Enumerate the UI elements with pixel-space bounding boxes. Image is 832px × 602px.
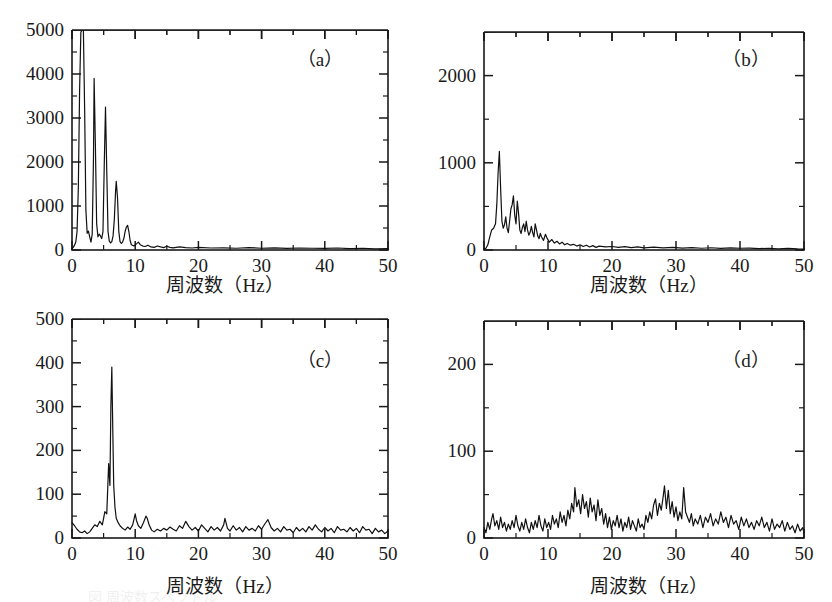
panel-b-tag: （b） bbox=[722, 49, 770, 70]
y-tick-label: 300 bbox=[36, 396, 65, 417]
panel-d-axes: 010203040500100200 bbox=[448, 301, 814, 564]
y-tick-label: 3000 bbox=[26, 107, 64, 128]
x-tick-label: 50 bbox=[379, 255, 398, 276]
panel-a-svg: 01020304050010002000300040005000 （a） 周波数… bbox=[0, 0, 416, 301]
x-tick-label: 40 bbox=[731, 255, 750, 276]
y-tick-label: 4000 bbox=[26, 63, 64, 84]
x-tick-label: 20 bbox=[189, 543, 208, 564]
y-tick-label: 0 bbox=[467, 239, 477, 260]
panel-c-svg: 010203040500100200300400500 （c） 周波数（Hz） bbox=[0, 301, 416, 602]
x-tick-label: 0 bbox=[67, 543, 77, 564]
x-tick-label: 10 bbox=[539, 543, 558, 564]
x-tick-label: 20 bbox=[189, 255, 208, 276]
trace-clip-top bbox=[70, 0, 390, 30]
panel-c: 010203040500100200300400500 （c） 周波数（Hz） bbox=[0, 301, 416, 602]
y-tick-label: 400 bbox=[36, 352, 65, 373]
spectrum-trace bbox=[484, 151, 804, 249]
x-tick-label: 30 bbox=[252, 255, 271, 276]
y-tick-label: 100 bbox=[36, 483, 65, 504]
y-tick-label: 2000 bbox=[26, 151, 64, 172]
panel-a-xlabel: 周波数（Hz） bbox=[166, 275, 283, 296]
x-tick-label: 40 bbox=[315, 255, 334, 276]
x-tick-label: 10 bbox=[539, 255, 558, 276]
panel-a-tag: （a） bbox=[297, 49, 343, 70]
y-tick-label: 1000 bbox=[26, 195, 64, 216]
trace-clip-top bbox=[482, 301, 806, 321]
x-tick-label: 20 bbox=[603, 255, 622, 276]
x-tick-label: 50 bbox=[795, 255, 814, 276]
x-tick-label: 40 bbox=[315, 543, 334, 564]
x-tick-label: 0 bbox=[479, 255, 489, 276]
x-tick-label: 30 bbox=[252, 543, 271, 564]
panel-c-axes: 010203040500100200300400500 bbox=[36, 301, 398, 564]
panel-c-tag: （c） bbox=[297, 350, 343, 371]
trace-clip-top bbox=[70, 301, 390, 319]
x-tick-label: 0 bbox=[479, 543, 489, 564]
panel-d-tag: （d） bbox=[722, 350, 770, 371]
y-tick-label: 0 bbox=[55, 527, 65, 548]
x-tick-label: 40 bbox=[731, 543, 750, 564]
y-tick-label: 1000 bbox=[438, 152, 476, 173]
x-tick-label: 10 bbox=[126, 255, 145, 276]
x-tick-label: 30 bbox=[667, 255, 686, 276]
spectrum-trace bbox=[484, 486, 804, 533]
spectrum-trace bbox=[72, 367, 388, 533]
x-tick-label: 10 bbox=[126, 543, 145, 564]
panel-b-axes: 01020304050010002000 bbox=[438, 0, 814, 276]
x-tick-label: 50 bbox=[379, 543, 398, 564]
x-tick-label: 50 bbox=[795, 543, 814, 564]
y-tick-label: 2000 bbox=[438, 65, 476, 86]
x-tick-label: 20 bbox=[603, 543, 622, 564]
y-tick-label: 100 bbox=[448, 440, 477, 461]
y-tick-label: 5000 bbox=[26, 19, 64, 40]
trace-clip-top bbox=[482, 0, 806, 32]
panel-b-svg: 01020304050010002000 （b） 周波数（Hz） bbox=[416, 0, 832, 301]
y-tick-label: 200 bbox=[36, 439, 65, 460]
x-tick-label: 30 bbox=[667, 543, 686, 564]
panel-b: 01020304050010002000 （b） 周波数（Hz） bbox=[416, 0, 832, 301]
figure-four-panel-spectra: 01020304050010002000300040005000 （a） 周波数… bbox=[0, 0, 832, 602]
panel-d: 010203040500100200 （d） 周波数（Hz） bbox=[416, 301, 832, 602]
panel-d-svg: 010203040500100200 （d） 周波数（Hz） bbox=[416, 301, 832, 602]
panel-a-axes: 01020304050010002000300040005000 bbox=[26, 0, 398, 276]
y-tick-label: 500 bbox=[36, 308, 65, 329]
x-tick-label: 0 bbox=[67, 255, 77, 276]
y-tick-label: 0 bbox=[55, 239, 65, 260]
y-tick-label: 0 bbox=[467, 527, 477, 548]
figure-caption-partial: 図 周波数スペクトル bbox=[0, 586, 832, 602]
panel-b-xlabel: 周波数（Hz） bbox=[590, 275, 707, 296]
y-tick-label: 200 bbox=[448, 353, 477, 374]
panel-a: 01020304050010002000300040005000 （a） 周波数… bbox=[0, 0, 416, 301]
